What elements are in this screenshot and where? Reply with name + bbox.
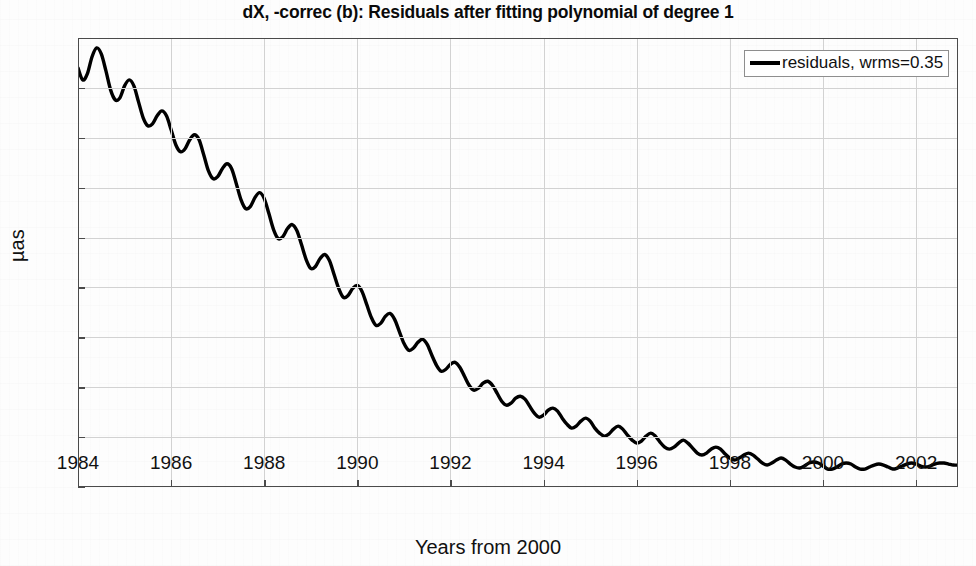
legend-label: residuals, wrms=0.35 xyxy=(782,53,943,73)
page-title: dX, -correc (b): Residuals after fitting… xyxy=(0,2,976,23)
plot-frame-border xyxy=(78,38,958,487)
y-tick-mark xyxy=(78,487,85,488)
legend-line-swatch xyxy=(750,61,780,65)
x-axis-label: Years from 2000 xyxy=(0,536,976,559)
legend[interactable]: residuals, wrms=0.35 xyxy=(744,50,949,77)
x-tick-label: 2000 xyxy=(802,452,844,474)
x-tick-label: 1990 xyxy=(336,452,378,474)
x-tick-label: 2002 xyxy=(895,452,937,474)
y-axis-label: µas xyxy=(6,229,29,262)
plot-area xyxy=(78,38,958,487)
x-tick-label: 1984 xyxy=(57,452,99,474)
x-tick-label: 1994 xyxy=(522,452,564,474)
x-tick-label: 1992 xyxy=(429,452,471,474)
x-tick-label: 1988 xyxy=(243,452,285,474)
x-tick-label: 1996 xyxy=(616,452,658,474)
x-tick-label: 1986 xyxy=(150,452,192,474)
chart-page: dX, -correc (b): Residuals after fitting… xyxy=(0,0,976,566)
x-tick-label: 1998 xyxy=(709,452,751,474)
